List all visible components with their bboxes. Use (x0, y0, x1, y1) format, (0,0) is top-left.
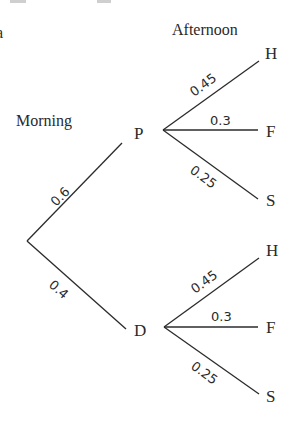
node-d-h: H (266, 241, 278, 260)
cropped-top-fragments: a (0, 0, 111, 41)
branch-root-to-p (27, 143, 122, 241)
node-p-h: H (265, 44, 277, 63)
probability-label-p-s: 0.25 (187, 162, 219, 191)
probability-label-p-f: 0.3 (210, 113, 231, 128)
probability-label-d-f: 0.3 (211, 309, 232, 324)
cropped-glyph-fragment (10, 0, 26, 3)
node-d-s: S (266, 387, 275, 406)
node-d-f: F (266, 318, 275, 337)
node-p-f: F (266, 122, 275, 141)
cropped-text-fragment: a (0, 24, 3, 41)
probability-label-p-h: 0.45 (187, 70, 219, 99)
subtree-p: 0.45 0.3 0.25 H F S (163, 44, 277, 210)
node-p-s: S (266, 191, 275, 210)
probability-label-d-h: 0.45 (188, 267, 220, 296)
subtree-d: 0.45 0.3 0.25 H F S (164, 241, 278, 406)
cropped-glyph-fragment (97, 0, 111, 3)
node-d: D (134, 321, 146, 340)
probability-label-d: 0.4 (46, 277, 71, 302)
first-level-branches: 0.6 0.4 (27, 143, 126, 329)
probability-tree-diagram: a Morning Afternoon 0.6 0.4 P D 0.45 0.3… (0, 0, 296, 422)
stage-label-afternoon: Afternoon (172, 21, 238, 38)
stage-label-morning: Morning (16, 112, 72, 130)
branch-root-to-d (27, 241, 126, 329)
probability-label-p: 0.6 (48, 184, 73, 209)
node-p: P (134, 124, 143, 143)
